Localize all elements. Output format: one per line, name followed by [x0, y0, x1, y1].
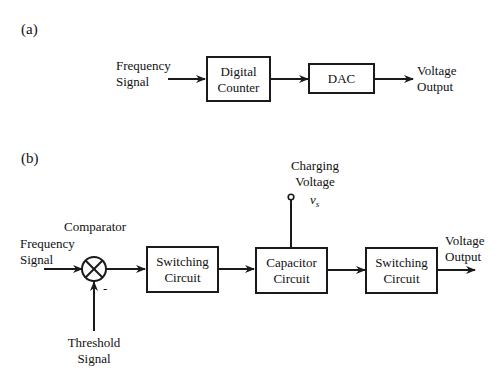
comparator-icon: [82, 257, 106, 281]
svg-text:Switching: Switching: [156, 254, 209, 269]
svg-text:Charging: Charging: [291, 158, 340, 173]
capacitor-circuit-block: Capacitor Circuit: [256, 248, 327, 293]
svg-text:Frequency: Frequency: [116, 58, 171, 73]
svg-text:Output: Output: [417, 79, 454, 94]
terminal-node-icon: [288, 194, 294, 200]
panel-b-input-label: Frequency Signal: [20, 236, 75, 267]
block-diagram: (a) Frequency Signal Digital Counter DAC…: [0, 0, 500, 383]
digital-counter-block: Digital Counter: [207, 57, 270, 101]
svg-text:Circuit: Circuit: [273, 271, 309, 286]
svg-text:Capacitor: Capacitor: [266, 255, 317, 270]
panel-b: (b) Comparator Frequency Signal - Thresh…: [20, 150, 485, 366]
svg-text:Output: Output: [445, 249, 482, 264]
dac-block: DAC: [309, 64, 374, 93]
charging-voltage-label: Charging Voltage vs: [291, 158, 340, 209]
svg-text:vs: vs: [310, 192, 320, 209]
comparator-minus-sign: -: [103, 281, 107, 296]
panel-b-output-label: Voltage Output: [445, 233, 485, 264]
threshold-label: Threshold Signal: [68, 335, 121, 366]
panel-b-label: (b): [21, 150, 39, 167]
panel-a-output-label: Voltage Output: [417, 63, 457, 94]
svg-text:Digital: Digital: [220, 64, 256, 79]
svg-text:Circuit: Circuit: [164, 270, 200, 285]
switching-circuit-1-block: Switching Circuit: [147, 247, 218, 292]
svg-text:DAC: DAC: [328, 71, 355, 86]
svg-text:Threshold: Threshold: [68, 335, 121, 350]
svg-text:Counter: Counter: [218, 80, 261, 95]
svg-text:Voltage: Voltage: [295, 174, 335, 189]
panel-a: (a) Frequency Signal Digital Counter DAC…: [21, 21, 457, 101]
panel-a-input-label: Frequency Signal: [116, 58, 171, 89]
svg-text:Signal: Signal: [116, 74, 150, 89]
svg-text:Switching: Switching: [375, 255, 428, 270]
svg-text:Frequency: Frequency: [20, 236, 75, 251]
svg-text:Signal: Signal: [20, 252, 54, 267]
comparator-label: Comparator: [64, 219, 127, 234]
svg-text:Signal: Signal: [77, 351, 111, 366]
switching-circuit-2-block: Switching Circuit: [366, 248, 437, 293]
svg-text:Circuit: Circuit: [383, 271, 419, 286]
panel-a-label: (a): [21, 21, 38, 38]
svg-text:Voltage: Voltage: [445, 233, 485, 248]
svg-text:Voltage: Voltage: [417, 63, 457, 78]
